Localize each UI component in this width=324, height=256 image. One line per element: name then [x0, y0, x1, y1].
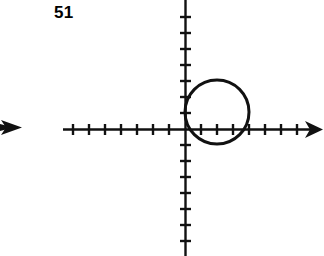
margin-pointer-arrow-icon [0, 120, 22, 135]
coordinate-plane-graph [0, 0, 324, 256]
x-axis [63, 121, 323, 138]
math-figure: 51 [0, 0, 324, 256]
